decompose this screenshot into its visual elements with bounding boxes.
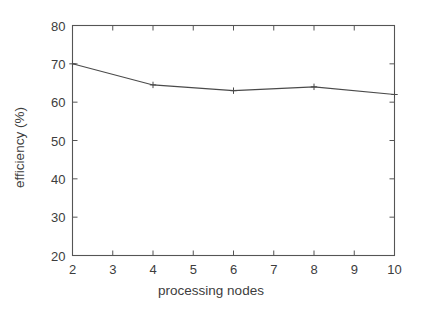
x-tick-label: 7	[270, 263, 277, 276]
data-point-marker	[150, 82, 156, 88]
y-axis-title: efficiency (%)	[12, 88, 27, 208]
x-tick-label: 10	[387, 263, 401, 276]
x-axis-title: processing nodes	[0, 283, 422, 298]
efficiency-line-chart: 20304050607080 2345678910 processing nod…	[0, 0, 422, 312]
axes-frame	[73, 26, 395, 256]
x-tick-label: 5	[190, 263, 197, 276]
y-axis-ticks	[73, 26, 395, 256]
y-tick-label: 20	[51, 249, 65, 262]
x-tick-label: 8	[310, 263, 317, 276]
x-axis-ticks	[73, 26, 395, 256]
data-point-marker	[391, 91, 397, 97]
plot-frame	[73, 26, 395, 256]
x-tick-label: 4	[149, 263, 156, 276]
data-point-marker	[69, 61, 75, 67]
y-tick-label: 60	[51, 96, 65, 109]
data-point-markers	[69, 61, 397, 98]
y-tick-label: 50	[51, 134, 65, 147]
data-point-marker	[230, 87, 236, 93]
x-tick-label: 2	[69, 263, 76, 276]
data-point-marker	[311, 84, 317, 90]
x-tick-label: 3	[109, 263, 116, 276]
plot-canvas	[0, 0, 422, 312]
y-tick-label: 30	[51, 211, 65, 224]
x-tick-label: 6	[230, 263, 237, 276]
x-tick-label: 9	[351, 263, 358, 276]
y-tick-label: 40	[51, 172, 65, 185]
y-tick-label: 80	[51, 19, 65, 32]
y-tick-label: 70	[51, 57, 65, 70]
